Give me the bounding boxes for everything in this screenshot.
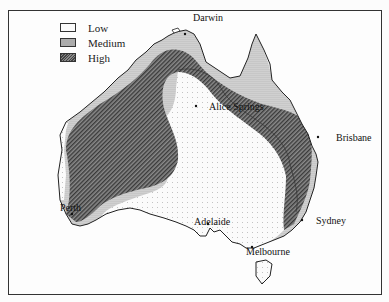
high-swatch-icon [60, 53, 76, 62]
city-dot-perth [71, 213, 73, 215]
city-label-brisbane: Brisbane [336, 132, 372, 143]
city-dot-alice-springs [195, 105, 197, 107]
tasmania [256, 260, 272, 284]
city-label-alice-springs: Alice Springs [209, 101, 264, 112]
medium-swatch-icon [60, 38, 76, 47]
city-dot-sydney [301, 219, 303, 221]
city-label-sydney: Sydney [316, 215, 346, 226]
legend-label-medium: Medium [88, 37, 125, 49]
city-label-perth: Perth [60, 202, 81, 213]
city-dot-darwin [184, 33, 186, 35]
legend-item-low: Low [60, 20, 125, 35]
australia-map [0, 0, 389, 302]
low-swatch-icon [60, 23, 76, 32]
legend-label-high: High [88, 52, 110, 64]
city-label-adelaide: Adelaide [194, 216, 230, 227]
legend-item-high: High [60, 50, 125, 65]
map-legend: Low Medium High [60, 20, 125, 65]
city-label-melbourne: Melbourne [246, 246, 290, 257]
legend-item-medium: Medium [60, 35, 125, 50]
legend-label-low: Low [88, 22, 108, 34]
city-dot-brisbane [317, 136, 319, 138]
city-label-darwin: Darwin [193, 12, 223, 23]
